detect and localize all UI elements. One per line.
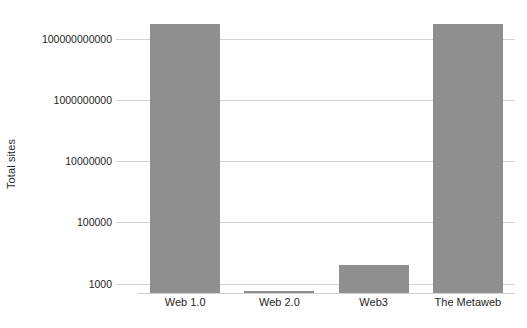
x-axis-ticks: Web 1.0Web 2.0Web3The Metaweb	[138, 296, 515, 316]
bar[interactable]	[244, 291, 314, 293]
y-tick-mark	[116, 284, 138, 285]
x-tick-label: Web 2.0	[259, 296, 300, 308]
x-tick-label: Web3	[359, 296, 388, 308]
bar[interactable]	[339, 265, 409, 293]
y-tick-mark	[116, 222, 138, 223]
x-tick-label: The Metaweb	[435, 296, 502, 308]
y-tick-label: 1000	[0, 278, 112, 290]
y-tick-mark	[116, 39, 138, 40]
bar[interactable]	[150, 24, 220, 293]
y-tick-label: 1000000000	[0, 94, 112, 106]
axis-baseline	[138, 293, 515, 294]
bar[interactable]	[433, 24, 503, 293]
y-tick-mark	[116, 161, 138, 162]
bar-series	[138, 8, 515, 293]
y-tick-label: 10000000	[0, 155, 112, 167]
y-tick-label: 100000000000	[0, 33, 112, 45]
y-tick-mark	[116, 100, 138, 101]
y-tick-label: 100000	[0, 216, 112, 228]
bar-chart: Total sites 1000100000100000001000000000…	[0, 0, 527, 328]
x-tick-label: Web 1.0	[165, 296, 206, 308]
y-axis-ticks: 1000100000100000001000000000100000000000	[0, 8, 138, 293]
